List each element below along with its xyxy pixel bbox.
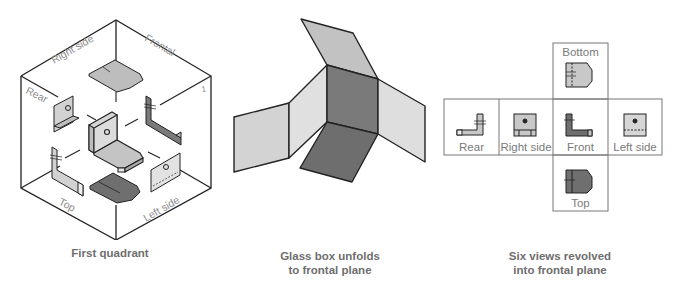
label-marker: 1 <box>201 84 207 94</box>
six-views-layout: Bottom Rear Right side Front Left side T… <box>440 0 677 240</box>
left-outer-plane <box>234 103 289 172</box>
first-quadrant-panel: Right side Frontal Rear Top Left side 1 … <box>0 0 230 290</box>
label-bottom: Bottom <box>562 46 598 58</box>
caption-first-quadrant: First quadrant <box>20 246 200 260</box>
left-side-view-plate <box>151 153 180 192</box>
top-view-plate <box>90 173 140 203</box>
top-view-drawing <box>564 170 592 193</box>
label-left-side: Left side <box>613 141 656 153</box>
left-side-view-drawing <box>624 114 646 136</box>
bottom-view-plate <box>89 60 143 92</box>
caption-line2: into frontal plane <box>470 263 650 277</box>
label-right-side: Right side <box>500 141 551 153</box>
caption-line1: Six views revolved <box>470 249 650 263</box>
front-view-drawing <box>564 114 592 136</box>
label-rear: Rear <box>459 141 484 153</box>
label-top: Top <box>57 195 78 214</box>
caption-line1: Glass box unfolds <box>240 249 420 263</box>
caption-line1: First quadrant <box>20 246 200 260</box>
glass-box-unfolds-panel: Glass box unfolds to frontal plane <box>220 0 440 290</box>
label-left-side: Left side <box>141 193 182 223</box>
right-side-view-drawing <box>514 114 536 136</box>
caption-line2: to frontal plane <box>240 263 420 277</box>
rear-view-plate <box>54 96 79 132</box>
caption-six-views: Six views revolved into frontal plane <box>470 249 650 277</box>
rear-view-drawing <box>457 114 486 135</box>
bottom-view-drawing <box>566 63 592 87</box>
label-top: Top <box>571 197 590 209</box>
label-rear: Rear <box>24 84 50 105</box>
right-plane <box>378 79 425 162</box>
six-views-panel: Bottom Rear Right side Front Left side T… <box>440 0 677 290</box>
label-right-side: Right side <box>49 32 96 66</box>
unfolding-planes-diagram <box>220 0 440 240</box>
glass-box-cube-diagram: Right side Frontal Rear Top Left side 1 <box>0 0 230 240</box>
caption-glass-box: Glass box unfolds to frontal plane <box>240 249 420 277</box>
left-lower-view-plate <box>50 147 83 196</box>
label-frontal: Frontal <box>143 31 177 58</box>
label-front: Front <box>567 141 595 153</box>
